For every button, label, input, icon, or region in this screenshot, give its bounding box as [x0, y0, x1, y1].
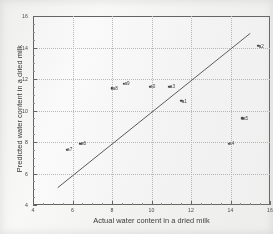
- regression-line: [58, 33, 251, 187]
- chart-screenshot: 4681012141646810121416 a7a6a8a9a0a3a1a5a…: [0, 0, 273, 234]
- fit-line: [0, 0, 273, 234]
